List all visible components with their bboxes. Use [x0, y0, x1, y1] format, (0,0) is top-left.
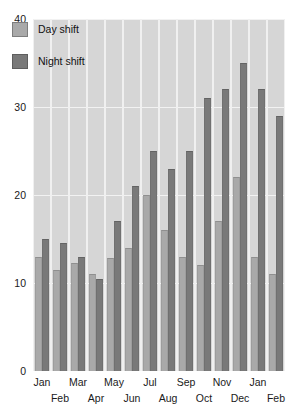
bar-sep-day-8 — [179, 257, 186, 371]
bar-jan-night-0 — [42, 239, 49, 371]
bar-apr-day-3 — [89, 274, 96, 371]
gridline-x-9 — [194, 19, 196, 371]
bar-aug-day-7 — [161, 230, 168, 371]
gridline-x-8 — [176, 19, 178, 371]
gridline-x-13 — [266, 19, 268, 371]
gridline-x-11 — [230, 19, 232, 371]
bar-may-night-4 — [114, 221, 121, 371]
gridline-x-5 — [122, 19, 124, 371]
gridline-x-4 — [104, 19, 106, 371]
x-tick-label-1: Feb — [51, 393, 69, 404]
x-tick-label-9: Oct — [196, 393, 212, 404]
x-tick-label-2: Mar — [69, 377, 87, 388]
bar-dec-day-11 — [233, 177, 240, 371]
bar-nov-day-10 — [215, 221, 222, 371]
bar-jan-night-12 — [258, 89, 265, 371]
bar-aug-night-7 — [168, 169, 175, 371]
bar-dec-night-11 — [240, 63, 247, 371]
bar-sep-night-8 — [186, 151, 193, 371]
x-tick-label-11: Dec — [231, 393, 250, 404]
x-tick-label-8: Sep — [177, 377, 196, 388]
x-tick-label-10: Nov — [213, 377, 232, 388]
gridline-x-7 — [158, 19, 160, 371]
bar-jan-day-12 — [251, 257, 258, 371]
bar-feb-night-13 — [276, 116, 283, 371]
x-tick-label-0: Jan — [34, 377, 51, 388]
y-tick-label-0: 0 — [20, 366, 26, 377]
bar-jul-night-6 — [150, 151, 157, 371]
gridline-x-10 — [212, 19, 214, 371]
bar-jun-night-5 — [132, 186, 139, 371]
gridline-x-14 — [284, 19, 286, 371]
x-axis: JanFebMarAprMayJunJulAugSepOctNovDecJanF… — [33, 371, 285, 415]
x-tick-label-7: Aug — [159, 393, 178, 404]
legend-label-night-shift: Night shift — [38, 55, 85, 67]
bar-nov-night-10 — [222, 89, 229, 371]
gridline-x-3 — [86, 19, 88, 371]
day-shift-swatch-icon — [12, 22, 28, 37]
legend-item-day-shift: Day shift — [12, 18, 85, 40]
bar-jul-day-6 — [143, 195, 150, 371]
y-tick-label-10: 10 — [14, 278, 26, 289]
bar-jan-day-0 — [35, 257, 42, 371]
x-tick-label-5: Jun — [124, 393, 141, 404]
bar-feb-night-1 — [60, 243, 67, 371]
bar-may-day-4 — [107, 258, 114, 371]
gridline-x-6 — [140, 19, 142, 371]
bar-mar-night-2 — [78, 257, 85, 371]
y-tick-label-30: 30 — [14, 102, 26, 113]
bar-feb-day-1 — [53, 270, 60, 371]
bar-jun-day-5 — [125, 248, 132, 371]
x-tick-label-4: May — [104, 377, 124, 388]
bar-oct-night-9 — [204, 98, 211, 371]
legend-label-day-shift: Day shift — [38, 23, 79, 35]
bar-mar-day-2 — [71, 263, 78, 371]
x-tick-label-6: Jul — [143, 377, 156, 388]
x-tick-label-12: Jan — [250, 377, 267, 388]
x-tick-label-3: Apr — [88, 393, 104, 404]
legend-item-night-shift: Night shift — [12, 50, 85, 72]
y-tick-label-20: 20 — [14, 190, 26, 201]
bar-apr-night-3 — [96, 279, 103, 371]
bar-chart: 010203040 JanFebMarAprMayJunJulAugSepOct… — [0, 0, 297, 415]
x-tick-label-13: Feb — [267, 393, 285, 404]
bar-feb-day-13 — [269, 274, 276, 371]
gridline-x-12 — [248, 19, 250, 371]
night-shift-swatch-icon — [12, 54, 28, 69]
legend: Day shift Night shift — [12, 18, 85, 82]
bar-oct-day-9 — [197, 265, 204, 371]
